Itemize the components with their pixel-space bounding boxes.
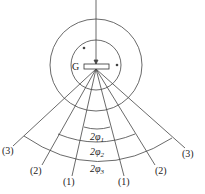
- angle-label-2: 2φ2: [90, 146, 105, 159]
- ray-order-3-right: [96, 69, 185, 148]
- angle-label-3: 2φ3: [90, 163, 105, 176]
- order-label: (2): [155, 165, 167, 177]
- ray-order-1-left: [72, 69, 96, 176]
- order-label: (1): [118, 176, 130, 188]
- diffraction-grating-diagram: G (3) (2) (1) (1) (2) (3) 2φ1 2φ2 2φ3: [0, 0, 205, 194]
- ray-order-2-right: [96, 69, 155, 165]
- grating-label: G: [72, 61, 79, 72]
- ray-order-3-left: [13, 69, 96, 146]
- dot: [83, 47, 86, 50]
- arrowhead-icon: [94, 60, 98, 64]
- dot: [116, 64, 119, 67]
- order-label: (2): [30, 165, 42, 177]
- arc-2phi1: [84, 127, 110, 129]
- grating: [84, 64, 109, 69]
- order-label: (3): [2, 145, 14, 157]
- order-label: (3): [182, 148, 194, 160]
- order-label: (1): [63, 176, 75, 188]
